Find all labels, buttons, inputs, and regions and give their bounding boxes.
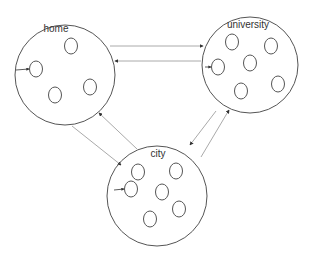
- edge-university-to-city: [190, 111, 216, 145]
- university-member-0[interactable]: [226, 34, 239, 50]
- university-member-3[interactable]: [244, 55, 257, 71]
- university-member-5[interactable]: [235, 83, 248, 99]
- edge-home-to-city: [72, 126, 121, 165]
- home-entry-arrow: [16, 69, 29, 70]
- home-label: home: [43, 23, 68, 34]
- city-entry-arrow: [114, 189, 124, 190]
- city-member-3[interactable]: [156, 184, 169, 200]
- nodes-group: homeuniversitycity: [15, 17, 298, 246]
- university-member-1[interactable]: [265, 38, 278, 54]
- city-member-2[interactable]: [125, 181, 138, 197]
- node-city[interactable]: city: [107, 146, 207, 246]
- city-circle[interactable]: [107, 146, 207, 246]
- edge-city-to-university: [201, 110, 229, 157]
- node-university[interactable]: university: [202, 17, 298, 113]
- city-member-1[interactable]: [170, 163, 183, 179]
- university-label: university: [227, 19, 269, 30]
- home-circle[interactable]: [15, 25, 115, 125]
- city-member-0[interactable]: [132, 164, 145, 180]
- university-circle[interactable]: [202, 17, 298, 113]
- university-member-4[interactable]: [272, 76, 285, 92]
- university-member-2[interactable]: [212, 59, 225, 75]
- city-member-5[interactable]: [144, 211, 157, 227]
- home-member-2[interactable]: [49, 87, 62, 103]
- home-member-1[interactable]: [30, 61, 43, 77]
- city-label: city: [151, 148, 166, 159]
- home-member-0[interactable]: [65, 38, 78, 54]
- home-member-3[interactable]: [84, 79, 97, 95]
- diagram-canvas: homeuniversitycity: [0, 0, 310, 256]
- edge-city-to-home: [99, 113, 137, 149]
- city-member-4[interactable]: [173, 201, 186, 217]
- node-home[interactable]: home: [15, 23, 115, 125]
